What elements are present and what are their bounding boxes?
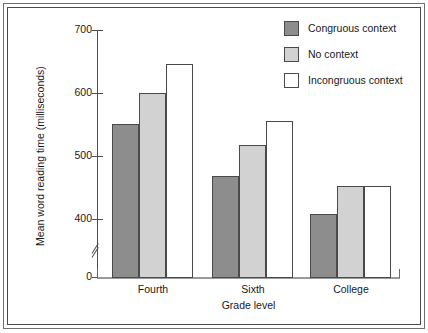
x-category-label-sixth: Sixth bbox=[208, 283, 298, 295]
bar-college-congruous bbox=[310, 214, 337, 278]
x-category-label-fourth: Fourth bbox=[108, 283, 198, 295]
x-tick-mark-left bbox=[97, 269, 98, 278]
y-axis-title: Mean word reading time (milliseconds) bbox=[34, 56, 46, 256]
y-tick-label-0: 0 bbox=[52, 271, 92, 282]
bar-sixth-congruous bbox=[212, 176, 239, 278]
legend-swatch-no-context bbox=[284, 47, 299, 62]
y-tick-mark-600 bbox=[92, 93, 103, 94]
bar-fourth-incongruous bbox=[166, 64, 193, 278]
plot-area: 700 600 500 400 0 Mean word reading time… bbox=[0, 0, 428, 333]
y-tick-mark-700 bbox=[92, 30, 103, 31]
legend-label-no-context: No context bbox=[308, 48, 358, 60]
bar-sixth-no-context bbox=[239, 145, 266, 278]
x-axis-title: Grade level bbox=[97, 299, 400, 311]
y-axis-line bbox=[97, 30, 98, 277]
y-tick-label-700: 700 bbox=[52, 24, 92, 35]
y-tick-label-400: 400 bbox=[52, 213, 92, 224]
axis-break-icon bbox=[91, 243, 105, 257]
y-tick-mark-400 bbox=[92, 219, 103, 220]
x-category-label-college: College bbox=[306, 283, 396, 295]
legend-swatch-incongruous bbox=[284, 73, 299, 88]
bar-fourth-no-context bbox=[139, 93, 166, 278]
y-tick-mark-500 bbox=[92, 156, 103, 157]
legend-label-congruous: Congruous context bbox=[308, 22, 396, 34]
bar-college-incongruous bbox=[364, 186, 391, 278]
legend-swatch-congruous bbox=[284, 21, 299, 36]
legend-label-incongruous: Incongruous context bbox=[308, 74, 403, 86]
figure-chart-word-reading-time: 700 600 500 400 0 Mean word reading time… bbox=[0, 0, 428, 333]
bar-sixth-incongruous bbox=[266, 121, 293, 278]
x-tick-mark-right bbox=[399, 269, 400, 278]
bar-college-no-context bbox=[337, 186, 364, 278]
y-tick-label-600: 600 bbox=[52, 87, 92, 98]
y-tick-label-500: 500 bbox=[52, 150, 92, 161]
bar-fourth-congruous bbox=[112, 124, 139, 278]
